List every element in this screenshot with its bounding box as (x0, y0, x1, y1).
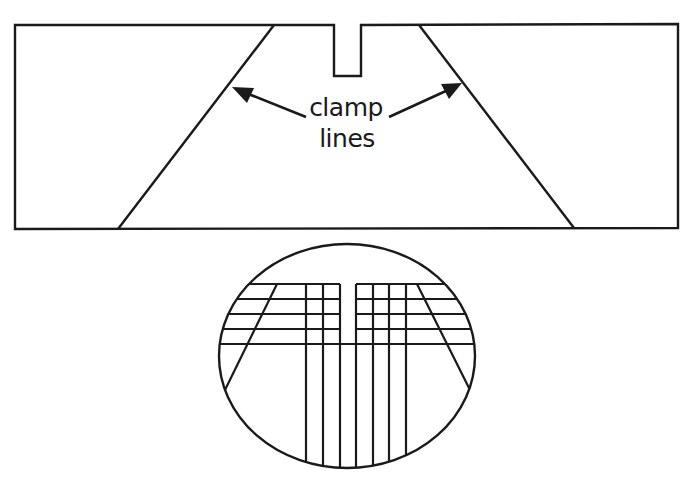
clamp-lines-diagram: clamp lines (0, 0, 691, 485)
right-arrow-icon (389, 83, 462, 117)
clamp-label-line1: clamp (309, 93, 383, 122)
left-clamp-line (118, 25, 274, 229)
horizontal-cut-lines (200, 284, 500, 344)
magnified-inset (200, 244, 500, 480)
clamp-label-line2: lines (319, 124, 375, 153)
left-arrow-icon (232, 87, 306, 117)
inset-ellipse (219, 244, 475, 468)
inset-left-clamp-line (224, 284, 277, 392)
right-clamp-line (419, 25, 574, 228)
board-figure: clamp lines (15, 24, 678, 229)
